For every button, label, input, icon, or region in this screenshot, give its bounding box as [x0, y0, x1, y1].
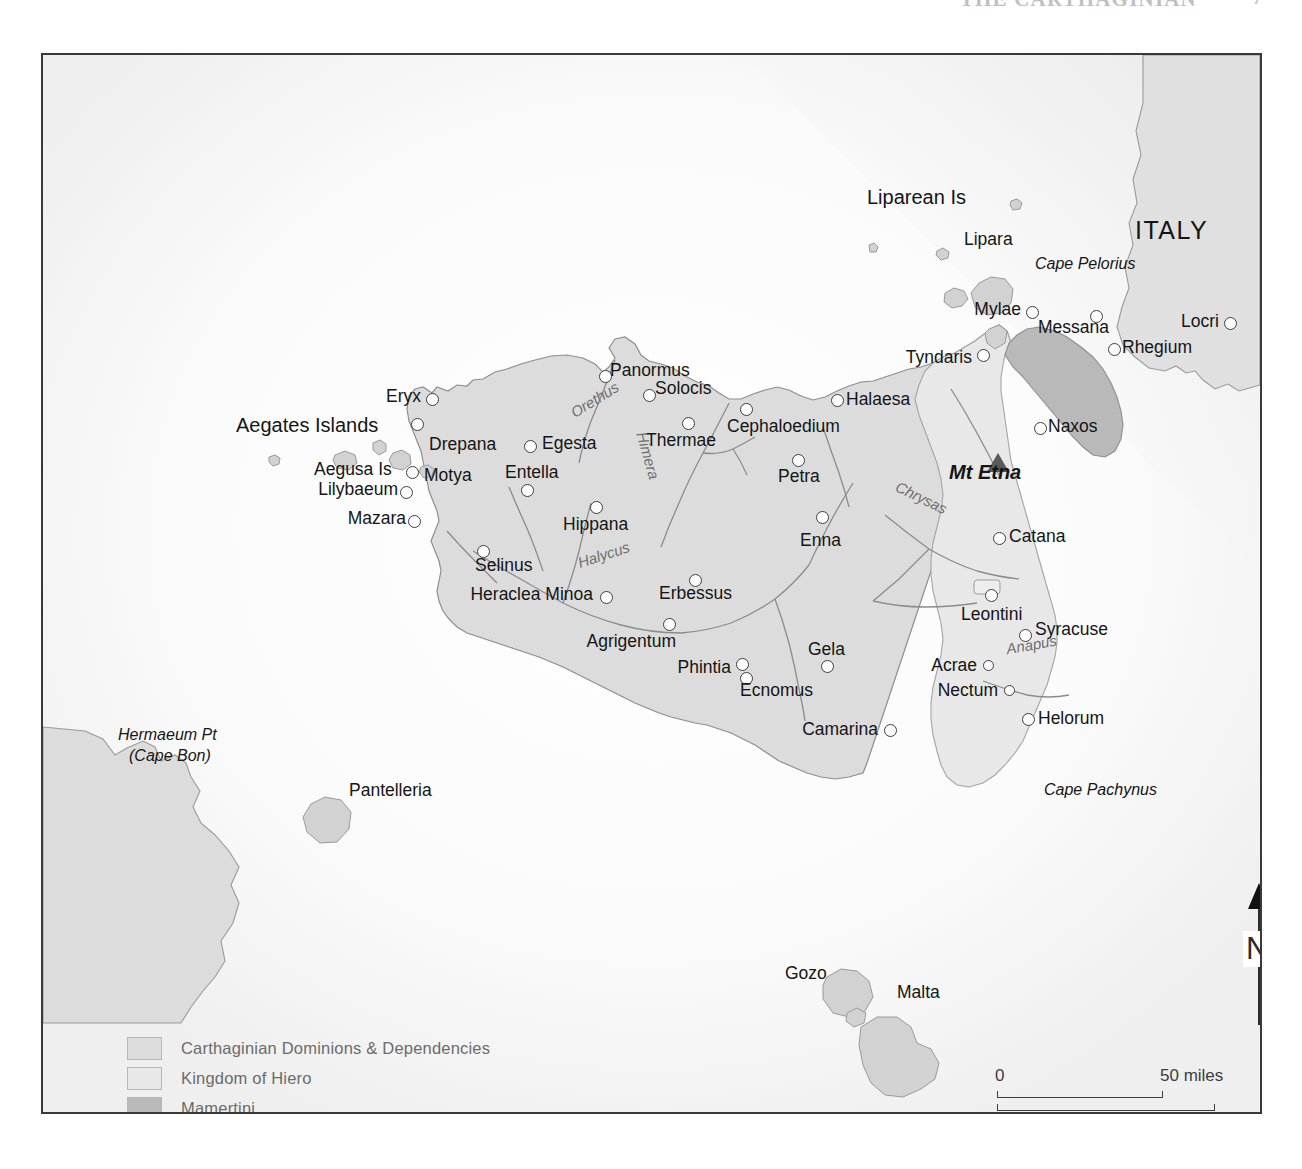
city-dot-syracuse[interactable] — [1019, 629, 1032, 642]
island-aegates-4 — [269, 455, 280, 466]
city-dot-rhegium[interactable] — [1108, 343, 1121, 356]
legend-label-mamertini: Mamertini — [181, 1099, 255, 1115]
city-dot-gela[interactable] — [821, 660, 834, 673]
legend-label-hiero: Kingdom of Hiero — [181, 1069, 312, 1088]
city-dot-solocis[interactable] — [643, 389, 656, 402]
city-dot-enna[interactable] — [816, 511, 829, 524]
city-dot-nectum[interactable] — [1004, 685, 1015, 696]
legend-label-carthaginian: Carthaginian Dominions & Dependencies — [181, 1039, 490, 1058]
city-dot-eryx[interactable] — [426, 393, 439, 406]
city-dot-lilybaeum[interactable] — [400, 486, 413, 499]
city-dot-selinus[interactable] — [477, 545, 490, 558]
scale-km-end: 100 km — [1149, 1110, 1205, 1114]
page-header-title: THE CARTHAGINIAN — [960, 0, 1197, 12]
city-dot-acrae[interactable] — [983, 660, 994, 671]
city-dot-heraclea-minoa[interactable] — [600, 591, 613, 604]
city-dot-cephaloedium[interactable] — [740, 403, 753, 416]
scale-miles-start: 0 — [995, 1066, 1004, 1086]
map-legend: Carthaginian Dominions & Dependencies Ki… — [127, 1034, 490, 1114]
scale-km-start: 0 — [995, 1110, 1004, 1114]
scale-line-miles — [997, 1091, 1163, 1098]
map-canvas — [43, 55, 1260, 1112]
volcano-marker-mt-etna — [987, 453, 1009, 472]
city-dot-catana[interactable] — [993, 532, 1006, 545]
scale-miles-end: 50 miles — [1160, 1066, 1223, 1086]
legend-swatch-carthaginian — [127, 1037, 162, 1060]
legend-item-carthaginian: Carthaginian Dominions & Dependencies — [127, 1034, 490, 1062]
city-dot-panormus[interactable] — [599, 370, 612, 383]
legend-item-hiero: Kingdom of Hiero — [127, 1064, 490, 1092]
page-folio-number: 7 — [1253, 0, 1263, 9]
city-dot-messana[interactable] — [1090, 310, 1103, 323]
city-dot-tyndaris[interactable] — [977, 349, 990, 362]
page-header: THE CARTHAGINIAN 7 — [0, 0, 1302, 26]
city-dot-leontini[interactable] — [985, 589, 998, 602]
north-arrow: N — [1239, 883, 1262, 1028]
city-dot-motya[interactable] — [406, 466, 419, 479]
city-dot-thermae[interactable] — [682, 417, 695, 430]
city-dot-helorum[interactable] — [1022, 713, 1035, 726]
city-dot-entella[interactable] — [521, 484, 534, 497]
city-dot-ecnomus[interactable] — [740, 672, 753, 685]
legend-swatch-hiero — [127, 1067, 162, 1090]
legend-item-mamertini: Mamertini — [127, 1094, 490, 1114]
city-dot-egesta[interactable] — [524, 440, 537, 453]
city-dot-camarina[interactable] — [884, 724, 897, 737]
legend-swatch-mamertini — [127, 1097, 162, 1115]
city-dot-agrigentum[interactable] — [663, 618, 676, 631]
city-dot-drepana[interactable] — [411, 418, 424, 431]
city-dot-phintia[interactable] — [736, 658, 749, 671]
city-dot-mazara[interactable] — [408, 515, 421, 528]
north-arrow-head-icon — [1248, 883, 1262, 909]
city-dot-hippana[interactable] — [590, 501, 603, 514]
north-arrow-letter: N — [1243, 931, 1262, 967]
city-dot-halaesa[interactable] — [831, 394, 844, 407]
city-dot-mylae[interactable] — [1026, 306, 1039, 319]
map-frame: ITALY Eryx Drepana Motya Lilybaeum Mazar… — [41, 53, 1262, 1114]
city-dot-naxos[interactable] — [1034, 422, 1047, 435]
city-dot-erbessus[interactable] — [689, 574, 702, 587]
city-dot-locri[interactable] — [1224, 317, 1237, 330]
city-dot-petra[interactable] — [792, 454, 805, 467]
